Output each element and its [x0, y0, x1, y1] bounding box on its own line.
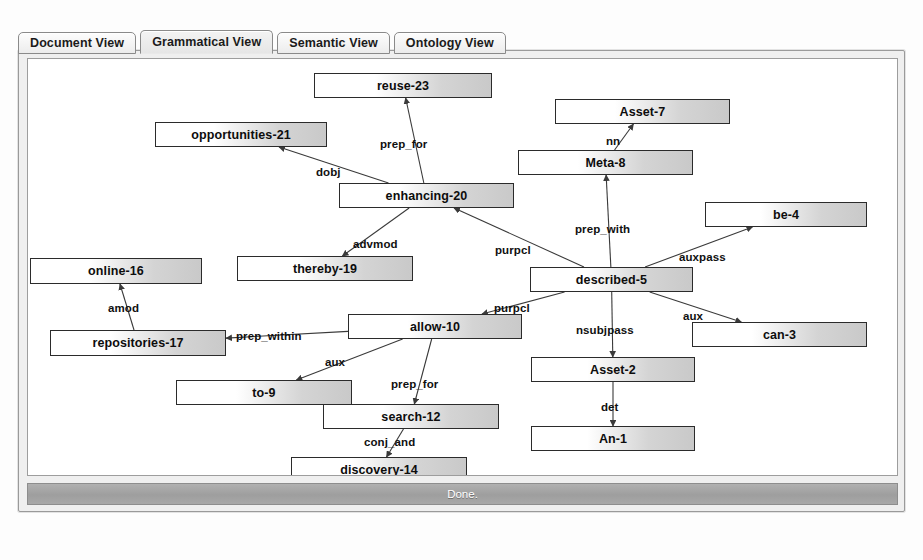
- graph-node-repositories-17[interactable]: repositories-17: [50, 330, 226, 356]
- graph-edge-allow-10-to-search-12: [414, 339, 431, 404]
- graph-node-An-1[interactable]: An-1: [531, 426, 695, 451]
- tab-grammatical-view[interactable]: Grammatical View: [140, 30, 273, 54]
- graph-node-to-9[interactable]: to-9: [176, 380, 352, 405]
- graph-node-discovery-14[interactable]: discovery-14: [291, 457, 467, 476]
- edge-label-nsubjpass: nsubjpass: [576, 324, 634, 336]
- tab-document-view[interactable]: Document View: [18, 32, 136, 54]
- graph-node-search-12[interactable]: search-12: [323, 404, 499, 429]
- edge-label-conj_and: conj_and: [364, 436, 415, 448]
- edge-label-purpcl: purpcl: [495, 244, 531, 256]
- edge-label-aux: aux: [325, 356, 345, 368]
- graph-node-described-5[interactable]: described-5: [530, 267, 693, 292]
- graph-edge-described-5-to-enhancing-20: [454, 208, 584, 267]
- graph-node-enhancing-20[interactable]: enhancing-20: [339, 183, 514, 208]
- edge-label-prep_with: prep_with: [575, 223, 630, 235]
- edge-label-auxpass: auxpass: [679, 251, 726, 263]
- graph-node-reuse-23[interactable]: reuse-23: [314, 73, 492, 98]
- status-text: Done.: [447, 488, 478, 500]
- status-bar: Done.: [27, 483, 898, 505]
- view-panel: reuse-23Asset-7opportunities-21Meta-8enh…: [18, 50, 905, 512]
- edge-label-dobj: dobj: [316, 166, 341, 178]
- graph-node-Asset-2[interactable]: Asset-2: [531, 357, 695, 382]
- graph-node-Asset-7[interactable]: Asset-7: [555, 99, 730, 124]
- tab-semantic-view[interactable]: Semantic View: [277, 32, 390, 54]
- edge-label-purpcl: purpcl: [494, 302, 530, 314]
- graph-node-can-3[interactable]: can-3: [692, 322, 867, 347]
- edge-label-nn: nn: [606, 135, 620, 147]
- graph-canvas[interactable]: reuse-23Asset-7opportunities-21Meta-8enh…: [27, 58, 898, 476]
- graph-node-allow-10[interactable]: allow-10: [348, 314, 522, 339]
- graph-edge-described-5-to-Meta-8: [606, 175, 611, 267]
- tab-bar: Document ViewGrammatical ViewSemantic Vi…: [18, 28, 510, 54]
- graph-node-online-16[interactable]: online-16: [30, 258, 202, 284]
- edge-label-prep_for: prep_for: [380, 138, 427, 150]
- edge-label-advmod: advmod: [353, 238, 398, 250]
- graph-node-thereby-19[interactable]: thereby-19: [237, 256, 413, 281]
- graph-node-Meta-8[interactable]: Meta-8: [518, 150, 693, 175]
- graph-node-be-4[interactable]: be-4: [705, 202, 867, 227]
- edge-label-aux: aux: [683, 310, 703, 322]
- edge-label-amod: amod: [108, 302, 139, 314]
- graph-node-opportunities-21[interactable]: opportunities-21: [155, 122, 327, 147]
- edge-label-det: det: [601, 401, 619, 413]
- graph-edge-allow-10-to-to-9: [296, 339, 402, 380]
- edge-label-prep_for: prep_for: [391, 378, 438, 390]
- tab-ontology-view[interactable]: Ontology View: [394, 32, 506, 54]
- edge-label-prep_within: prep_within: [236, 330, 302, 342]
